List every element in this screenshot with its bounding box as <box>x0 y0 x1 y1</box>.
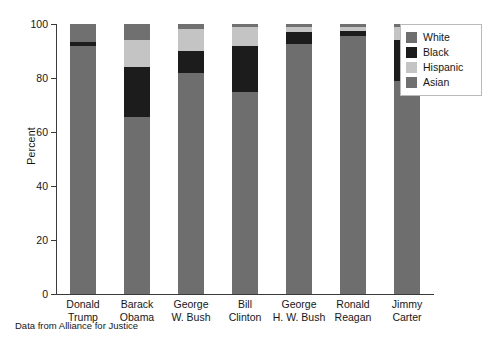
y-tick-label-wrap: 80 <box>0 72 48 84</box>
y-tick-label: 80 <box>2 72 48 84</box>
bar-segment[interactable] <box>178 51 204 73</box>
bar-segment[interactable] <box>232 27 258 46</box>
bar-segment[interactable] <box>340 24 366 27</box>
plot-area <box>56 24 434 294</box>
bar-segment[interactable] <box>340 27 366 31</box>
y-tick-label-wrap: 40 <box>0 180 48 192</box>
legend-swatch-icon <box>406 32 417 43</box>
bar-stack[interactable] <box>232 24 258 294</box>
x-axis-category-label: JimmyCarter <box>373 298 441 323</box>
bar-stack[interactable] <box>178 24 204 294</box>
bar-segment[interactable] <box>70 24 96 42</box>
chart-legend: WhiteBlackHispanicAsian <box>400 24 482 96</box>
legend-item[interactable]: Asian <box>406 75 476 89</box>
bar-segment[interactable] <box>340 31 366 36</box>
legend-swatch-icon <box>406 62 417 73</box>
y-tick-label: 0 <box>2 288 48 300</box>
bar-segment[interactable] <box>286 24 312 27</box>
y-axis-label: Percent <box>25 101 37 191</box>
bar-stack[interactable] <box>124 24 150 294</box>
bar-segment[interactable] <box>286 32 312 44</box>
bar-segment[interactable] <box>286 44 312 294</box>
bar-stack[interactable] <box>286 24 312 294</box>
y-tick-label: 20 <box>2 234 48 246</box>
legend-swatch-icon <box>406 47 417 58</box>
y-tick-label-wrap: 100 <box>0 18 48 30</box>
legend-label: Black <box>423 46 449 58</box>
bar-segment[interactable] <box>124 40 150 67</box>
bar-segment[interactable] <box>232 24 258 27</box>
bar-stack[interactable] <box>70 24 96 294</box>
bar-segment[interactable] <box>286 27 312 32</box>
bar-segment[interactable] <box>232 92 258 295</box>
legend-swatch-icon <box>406 77 417 88</box>
bar-segment[interactable] <box>394 81 420 294</box>
legend-label: White <box>423 31 450 43</box>
bar-segment[interactable] <box>178 73 204 294</box>
x-label-line: Carter <box>373 311 441 324</box>
stacked-bar-chart: Percent 020406080100 DonaldTrumpBarackOb… <box>0 0 490 337</box>
y-tick-label: 40 <box>2 180 48 192</box>
bar-segment[interactable] <box>178 24 204 29</box>
y-tick-label-wrap: 60 <box>0 126 48 138</box>
x-axis-line <box>56 294 434 295</box>
bar-stack[interactable] <box>340 24 366 294</box>
x-label-line: Jimmy <box>373 298 441 311</box>
bar-segment[interactable] <box>340 36 366 294</box>
legend-item[interactable]: Hispanic <box>406 60 476 74</box>
bar-segment[interactable] <box>178 29 204 51</box>
legend-label: Asian <box>423 76 449 88</box>
bar-segment[interactable] <box>124 117 150 294</box>
bar-segment[interactable] <box>70 46 96 294</box>
bar-segment[interactable] <box>232 46 258 92</box>
y-tick-label-wrap: 0 <box>0 288 48 300</box>
bar-segment[interactable] <box>124 24 150 40</box>
y-tick-label: 60 <box>2 126 48 138</box>
legend-item[interactable]: Black <box>406 45 476 59</box>
y-tick-mark <box>51 294 56 295</box>
bar-segment[interactable] <box>70 42 96 46</box>
bar-segment[interactable] <box>124 67 150 117</box>
y-tick-label-wrap: 20 <box>0 234 48 246</box>
legend-item[interactable]: White <box>406 30 476 44</box>
y-tick-label: 100 <box>2 18 48 30</box>
legend-label: Hispanic <box>423 61 463 73</box>
chart-footnote: Data from Alliance for Justice <box>15 320 138 331</box>
